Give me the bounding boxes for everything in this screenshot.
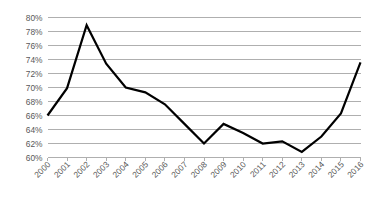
x-tick-label: 2014 [306, 159, 326, 179]
x-tick-label: 2011 [248, 159, 268, 179]
y-tick-label: 60% [26, 153, 43, 163]
y-tick-label: 72% [26, 69, 43, 79]
x-tick-label: 2003 [91, 159, 111, 179]
x-axis-tickmarks [48, 158, 361, 162]
x-tick-label: 2004 [110, 159, 130, 179]
x-axis-tick-labels: 2000200120022003200420052006200720082009… [32, 159, 365, 179]
x-tick-label: 2009 [208, 159, 228, 179]
y-tick-label: 64% [26, 125, 43, 135]
y-tick-label: 66% [26, 111, 43, 121]
data-series-line [48, 25, 361, 152]
chart-canvas: 60%62%64%66%68%70%72%74%76%78%80% 200020… [0, 0, 378, 202]
y-tick-label: 70% [26, 83, 43, 93]
x-tick-label: 2001 [52, 159, 72, 179]
line-chart: 60%62%64%66%68%70%72%74%76%78%80% 200020… [0, 0, 378, 202]
y-axis-tick-labels: 60%62%64%66%68%70%72%74%76%78%80% [26, 13, 43, 163]
x-tick-label: 2012 [267, 159, 287, 179]
x-tick-label: 2007 [169, 159, 189, 179]
x-tick-label: 2008 [189, 159, 209, 179]
y-tick-label: 74% [26, 55, 43, 65]
x-tick-label: 2005 [130, 159, 150, 179]
x-tick-label: 2013 [286, 159, 306, 179]
x-tick-label: 2016 [345, 159, 365, 179]
x-tick-label: 2006 [150, 159, 170, 179]
y-tick-label: 76% [26, 41, 43, 51]
x-tick-label: 2002 [71, 159, 91, 179]
x-tick-label: 2010 [228, 159, 248, 179]
y-tick-label: 62% [26, 139, 43, 149]
y-tick-label: 78% [26, 27, 43, 37]
x-tick-label: 2015 [326, 159, 346, 179]
y-tick-label: 80% [26, 13, 43, 23]
y-tick-label: 68% [26, 97, 43, 107]
